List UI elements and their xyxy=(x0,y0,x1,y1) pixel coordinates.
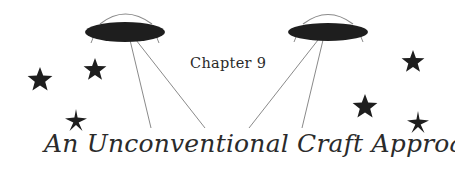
star-icon xyxy=(84,58,107,80)
right-ufo-icon xyxy=(288,15,368,43)
chapter-label: Chapter 9 xyxy=(190,55,266,71)
left-ufo-icon xyxy=(85,14,165,43)
star-icon xyxy=(353,94,378,118)
left-ufo-beams xyxy=(130,40,205,128)
star-icon xyxy=(65,109,87,131)
right-ufo-beams xyxy=(249,40,323,128)
chapter-title: An Unconventional Craft Approaches xyxy=(44,129,424,158)
star-icon xyxy=(402,50,425,72)
star-icon xyxy=(28,67,53,91)
